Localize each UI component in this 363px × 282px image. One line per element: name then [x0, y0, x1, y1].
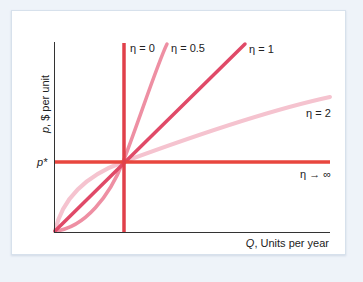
curve-eta-2 — [55, 97, 330, 231]
y-axis-label: p, $ per unit — [39, 75, 51, 134]
supply-elasticity-chart: p, $ per unit Q, Units per year p* η = 0… — [0, 0, 363, 282]
label-eta-1: η = 1 — [249, 43, 274, 55]
label-eta-infinity: η → ∞ — [300, 168, 331, 180]
p-star-label: p* — [36, 156, 48, 168]
label-eta-0: η = 0 — [130, 42, 155, 54]
label-eta-2: η = 2 — [306, 107, 331, 119]
label-eta-0.5: η = 0.5 — [171, 42, 205, 54]
x-axis-label: Q, Units per year — [246, 237, 329, 249]
line-eta-1 — [55, 44, 245, 231]
